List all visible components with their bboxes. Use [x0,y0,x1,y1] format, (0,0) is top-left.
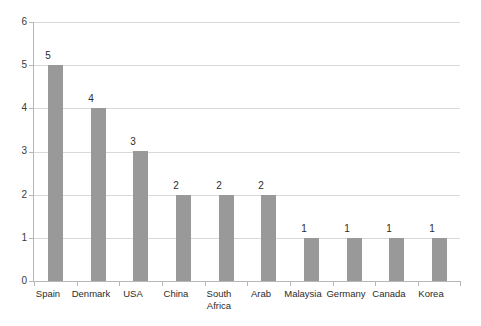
x-tick-mark-9 [418,281,419,286]
x-tick-mark-6 [290,281,291,286]
x-tick-mark-8 [375,281,376,286]
y-tick-label-2: 2 [5,190,27,200]
y-tick-label-1: 1 [5,233,27,243]
x-tick-mark-7 [333,281,334,286]
bar-germany[interactable] [347,238,362,281]
bar-value-china: 2 [154,180,198,191]
x-tick-mark-0 [34,281,35,286]
gridline-6 [34,22,460,23]
x-category-label-arab: Arab [239,288,283,300]
x-category-label-germany: Germany [324,288,368,300]
gridline-5 [34,65,460,66]
bar-value-malaysia: 1 [282,223,326,234]
x-category-label-usa: USA [111,288,155,300]
bar-value-canada: 1 [367,223,411,234]
y-axis: 6 5 4 3 2 1 0 [0,0,27,326]
x-category-label-spain: Spain [26,288,70,300]
y-tick-label-3: 3 [5,146,27,156]
bar-value-spain: 5 [26,50,70,61]
y-tick-label-0: 0 [5,276,27,286]
bar-value-korea: 1 [410,223,454,234]
x-category-label-south-africa: South Africa [197,288,241,312]
bar-value-usa: 3 [111,136,155,147]
bar-canada[interactable] [389,238,404,281]
x-tick-mark-10 [460,281,461,286]
bar-korea[interactable] [432,238,447,281]
bar-value-south-africa: 2 [197,180,241,191]
bar-arab[interactable] [261,195,276,281]
x-category-label-korea: Korea [409,288,453,300]
bar-south-africa[interactable] [219,195,234,281]
x-category-label-canada: Canada [367,288,411,300]
x-category-label-malaysia: Malaysia [281,288,325,300]
bar-malaysia[interactable] [304,238,319,281]
x-category-label-china: China [154,288,198,300]
x-tick-mark-4 [205,281,206,286]
y-tick-label-4: 4 [5,103,27,113]
x-tick-mark-2 [119,281,120,286]
x-tick-mark-1 [77,281,78,286]
bar-value-arab: 2 [239,180,283,191]
bar-spain[interactable] [48,65,63,281]
plot-area [34,22,460,281]
x-tick-mark-5 [247,281,248,286]
bar-value-germany: 1 [325,223,369,234]
bar-value-denmark: 4 [69,93,113,104]
bar-usa[interactable] [133,151,148,281]
bar-china[interactable] [176,195,191,281]
bar-chart: 6 5 4 3 2 1 0 5 4 3 2 2 2 1 [0,0,481,326]
y-tick-label-5: 5 [5,60,27,70]
x-tick-mark-3 [162,281,163,286]
bar-denmark[interactable] [91,108,106,281]
y-tick-label-6: 6 [5,17,27,27]
x-category-label-denmark: Denmark [69,288,113,300]
